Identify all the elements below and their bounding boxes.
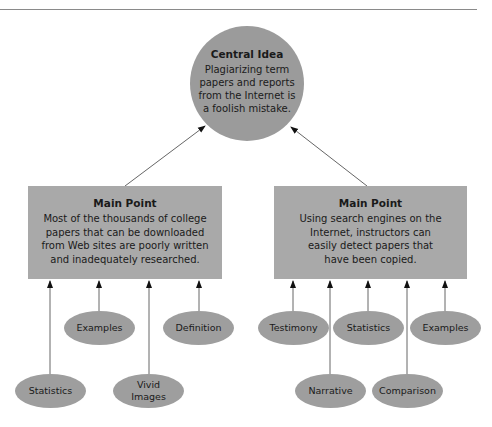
- support-examples-right: Examples: [410, 311, 481, 345]
- support-definition: Definition: [163, 311, 234, 345]
- central-idea-text: Plagiarizing term papers and reports fro…: [196, 63, 298, 115]
- central-idea-title: Central Idea: [211, 48, 283, 60]
- main-point-1-text: Most of the thousands of college papers …: [39, 212, 211, 266]
- central-idea-node: Central Idea Plagiarizing term papers an…: [190, 26, 304, 141]
- main-point-1-title: Main Point: [93, 197, 156, 209]
- main-point-2-node: Main Point Using search engines on the I…: [274, 186, 467, 279]
- support-narrative: Narrative: [295, 374, 366, 408]
- main-point-2-text: Using search engines on the Internet, in…: [296, 212, 446, 266]
- support-statistics-right: Statistics: [333, 311, 404, 345]
- support-comparison: Comparison: [372, 374, 443, 408]
- support-examples-left: Examples: [64, 311, 135, 345]
- support-vivid-images: Vivid Images: [113, 374, 184, 408]
- support-statistics-left: Statistics: [15, 374, 86, 408]
- main-point-1-node: Main Point Most of the thousands of coll…: [28, 186, 222, 279]
- main-point-2-title: Main Point: [339, 197, 402, 209]
- support-testimony: Testimony: [258, 311, 329, 345]
